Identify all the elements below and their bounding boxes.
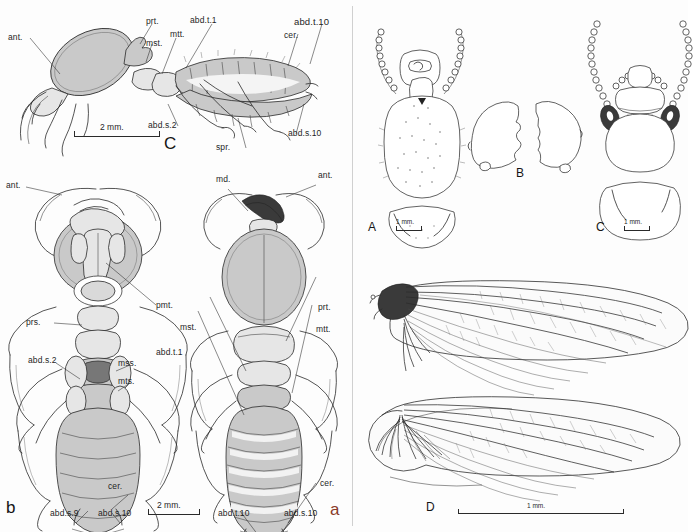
label-a-abd-t-10: abd.t.10 [218,508,250,518]
label-b-cer: cer. [108,481,122,491]
label-b-abd-s-2: abd.s.2 [28,355,57,365]
scale-bar-a-head [396,230,422,231]
panel-d-wings-drawing [360,265,690,515]
label-a-ant: ant. [318,170,333,180]
label-b-prs: prs. [26,317,41,327]
scale-bar-d-wings [458,513,624,514]
panel-letter-d-wings: D [426,500,435,514]
label-c-abd-t-10: abd.t.10 [294,16,329,27]
scale-bar-c-lateral [74,136,160,137]
panel-b-mandibles-drawing [460,88,590,198]
panel-a-dorsal-drawing [180,165,350,525]
scale-bar-c-head [624,230,650,231]
scale-tick-right-c-head [649,226,650,231]
label-b-abd-s-10: abd.s.10 [98,508,131,518]
scale-bar-a-dorsal [148,514,200,515]
label-b-pmt: pmt. [156,300,173,310]
scale-label-b-ventral: 2 mm. [157,500,181,510]
label-a-abd-s-10: abd.s.10 [284,508,317,518]
scale-tick-right-a-head [421,226,422,231]
scale-label-a-head: 1 mm. [396,218,414,225]
panel-letter-b-mandibles: B [516,166,524,180]
label-a-mtt: mtt. [316,324,331,334]
label-a-mst: mst. [180,322,196,332]
scale-tick-left-c-head [624,226,625,231]
panel-b-ventral-drawing [0,165,190,525]
panel-letter-c-lateral: C [164,134,176,154]
label-c-abd-s-2: abd.s.2 [148,120,177,130]
label-a-prt: prt. [318,302,331,312]
scale-tick-right-d [623,509,624,514]
label-c-spr: spr. [216,142,230,152]
scale-tick-right-c [159,131,160,137]
panel-letter-c-head: C [596,220,605,234]
label-c-cer: cer. [284,30,298,40]
panel-c-head-drawing [580,10,697,240]
panel-letter-a-head: A [368,220,376,234]
label-a-cer: cer. [320,478,334,488]
scale-tick-left-a-head [396,226,397,231]
label-b-abd-s-9: abd.s.9 [50,508,79,518]
label-c-mst: mst. [146,38,162,48]
label-c-abd-s-10: abd.s.10 [288,128,321,138]
label-c-mtt: mtt. [170,29,185,39]
scale-tick-left-c [74,131,75,137]
scale-label-c-head: 1 mm. [624,218,642,225]
label-c-prt: prt. [146,16,159,26]
label-c-abd-t-1: abd.t.1 [190,15,217,25]
label-b-mss: mss. [118,358,136,368]
label-b-ant: ant. [6,180,21,190]
plate-divider [352,6,353,526]
label-c-ant: ant. [8,32,23,42]
scale-label-c-lateral: 2 mm. [100,122,124,132]
scale-label-d-wings: 1 mm. [527,502,545,509]
panel-letter-a-dorsal: a [330,500,339,520]
label-a-abd-t-1: abd.t.1 [156,347,183,357]
scale-tick-left-d [458,509,459,514]
label-a-md: md. [216,174,230,184]
label-b-mts: mts. [118,376,134,386]
panel-letter-b-ventral: b [6,498,15,518]
